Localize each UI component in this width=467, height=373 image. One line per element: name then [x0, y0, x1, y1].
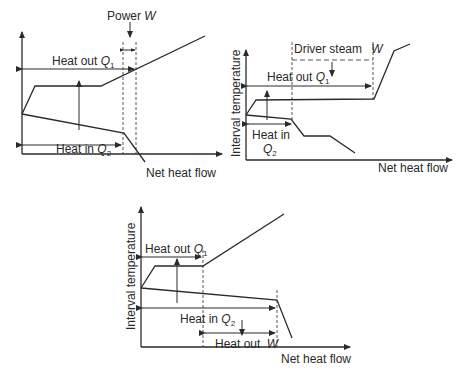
x-axis-label: Net heat flow: [378, 161, 448, 175]
heat-out-label: Heat out Q1: [145, 242, 208, 258]
heat-engine-diagrams: Power W Heat out Q1 Heat in Q2 Net heat …: [0, 0, 467, 373]
heat-out-w-label: Heat out W: [215, 337, 280, 351]
heat-in-label: Heat in Q2: [180, 312, 236, 328]
heat-out-label: Heat out Q1: [52, 54, 115, 70]
panel-top-right: Interval temperature Driver steam W Heat…: [229, 42, 452, 175]
x-axis-label: Net heat flow: [281, 352, 351, 366]
y-axis-label: Interval temperature: [229, 49, 243, 157]
power-label: Power W: [107, 9, 157, 23]
hot-composite-curve: [22, 36, 205, 114]
heat-in-q2-label: Q2: [263, 142, 277, 158]
heat-in-label: Heat in: [252, 128, 290, 142]
heat-out-label: Heat out Q1: [267, 70, 330, 86]
y-axis-label: Interval temperature: [124, 222, 138, 330]
x-axis-label: Net heat flow: [146, 166, 216, 180]
panel-top-left: Power W Heat out Q1 Heat in Q2 Net heat …: [22, 9, 222, 180]
driver-steam-label: Driver steam W: [294, 42, 384, 56]
panel-bottom: Interval temperature Heat out Q1 Heat in…: [124, 207, 351, 366]
heat-in-label: Heat in Q2: [56, 142, 112, 158]
